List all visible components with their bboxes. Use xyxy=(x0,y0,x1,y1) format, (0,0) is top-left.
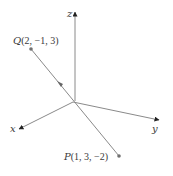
point-p-dot xyxy=(117,154,121,158)
point-q-name: Q xyxy=(13,35,21,46)
point-p-coords: (1, 3, −2) xyxy=(71,151,108,163)
point-q-dot xyxy=(29,47,33,51)
x-axis xyxy=(19,102,73,129)
y-axis-label: y xyxy=(151,123,158,134)
point-q-label: Q(2, −1, 3) xyxy=(13,35,59,47)
3d-coordinate-diagram: z y x Q(2, −1, 3) P(1, 3, −2) xyxy=(0,0,173,176)
point-p-label: P(1, 3, −2) xyxy=(63,151,108,163)
x-axis-label: x xyxy=(10,123,16,134)
point-q-coords: (2, −1, 3) xyxy=(21,35,58,47)
z-axis-label: z xyxy=(66,8,73,19)
y-axis xyxy=(73,102,159,120)
